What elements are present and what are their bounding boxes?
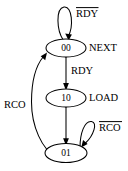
label-rdy: RDY	[71, 65, 94, 76]
state-node-00[interactable]: 00	[46, 39, 86, 57]
state-00-code: 00	[61, 43, 71, 53]
state-node-01[interactable]: 01	[45, 144, 87, 163]
state-00-output-next: NEXT	[89, 42, 118, 53]
transition-10-to-01	[63, 107, 69, 145]
label-not-rco-text: RCO	[99, 122, 121, 133]
state-10-output-load: LOAD	[89, 92, 119, 103]
edge-01-00-curve	[32, 57, 57, 158]
state-node-10[interactable]: 10	[46, 89, 86, 107]
transition-00-to-10	[63, 57, 69, 90]
label-not-rco: RCO	[99, 122, 122, 133]
fsm-canvas: 00 NEXT 10 LOAD 01 RDY RDY RCO RCO	[0, 0, 128, 171]
state-diagram: 00 NEXT 10 LOAD 01 RDY RDY RCO RCO	[0, 0, 128, 171]
transition-01-self-loop	[80, 121, 95, 147]
state-01-code: 01	[61, 148, 71, 158]
state-10-code: 10	[61, 93, 71, 103]
label-not-rdy: RDY	[76, 8, 99, 19]
transition-00-self-loop	[58, 7, 72, 41]
label-rco: RCO	[4, 99, 26, 110]
label-not-rdy-text: RDY	[76, 8, 99, 19]
